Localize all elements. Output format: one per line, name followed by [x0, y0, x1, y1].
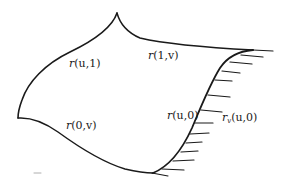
- curve-r-1-v: [117, 13, 253, 50]
- surface-patch-diagram: [0, 0, 287, 192]
- label-r-u-0: r(u,0): [167, 110, 198, 121]
- label-r-0-v: r(0,v): [66, 120, 97, 131]
- label-r-1-v: r(1,v): [148, 50, 179, 61]
- curve-r-u-1: [18, 13, 117, 118]
- label-r-v-u-0: rv(u,0): [222, 112, 257, 125]
- label-r-u-1: r(u,1): [69, 58, 100, 69]
